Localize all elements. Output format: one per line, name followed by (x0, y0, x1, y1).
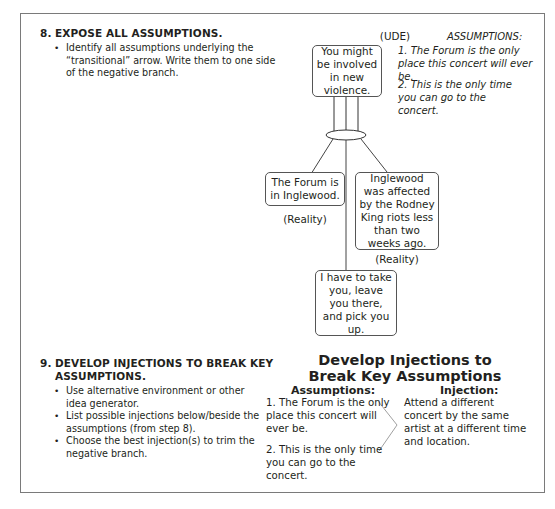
bottom-box-text: I have to take you, leave you there, and… (319, 271, 393, 336)
bottom-box: I have to take you, leave you there, and… (315, 270, 397, 336)
step9-bullet: Use alternative environment or other ide… (54, 385, 264, 410)
step8-bullet: Identify all assumptions underlying the … (54, 42, 279, 80)
step9-bullet: List possible injections below/beside th… (54, 410, 264, 435)
injection-assumption-2: 2. This is the only time you can go to t… (266, 443, 392, 482)
step9-title-line2: ASSUMPTIONS. (40, 370, 290, 383)
injections-title-line2: Break Key Assumptions (300, 368, 510, 384)
step9-title: 9.DEVELOP INJECTIONS TO BREAK KEY ASSUMP… (40, 357, 290, 383)
step8-title-text: EXPOSE ALL ASSUMPTIONS. (55, 27, 223, 39)
ude-box-text: You might be involved in new violence. (316, 45, 378, 97)
step8-title: 8.EXPOSE ALL ASSUMPTIONS. (40, 27, 280, 40)
forum-reality-tag: (Reality) (265, 213, 345, 226)
step9-title-line1: DEVELOP INJECTIONS TO BREAK KEY (55, 357, 273, 369)
assumption-2: 2. This is the only time you can go to t… (398, 78, 518, 117)
ude-label: (UDE) (370, 30, 420, 43)
step9-bullet: Choose the best injection(s) to trim the… (54, 435, 264, 460)
step9-bullets: Use alternative environment or other ide… (54, 385, 264, 460)
injections-title-line1: Develop Injections to (300, 352, 510, 368)
inglewood-reality-tag: (Reality) (355, 253, 439, 266)
ude-box: You might be involved in new violence. (312, 45, 382, 97)
step8-number: 8. (40, 27, 55, 40)
inglewood-box-text: Inglewood was affected by the Rodney Kin… (359, 172, 435, 250)
forum-box: The Forum is in Inglewood. (265, 172, 345, 206)
assumptions-heading: ASSUMPTIONS: (436, 30, 555, 43)
step8-bullets: Identify all assumptions underlying the … (54, 42, 279, 80)
inglewood-box: Inglewood was affected by the Rodney Kin… (355, 172, 439, 250)
injection-assumption-1: 1. The Forum is the only place this conc… (266, 396, 392, 435)
injections-title: Develop Injections to Break Key Assumpti… (300, 352, 510, 384)
injection-text: Attend a different concert by the same a… (404, 396, 529, 448)
step9-number: 9. (40, 357, 55, 370)
forum-box-text: The Forum is in Inglewood. (269, 176, 341, 202)
